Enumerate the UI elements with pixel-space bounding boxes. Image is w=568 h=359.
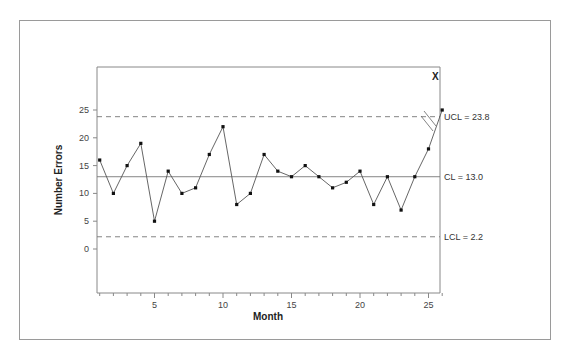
data-point xyxy=(126,164,129,167)
x-tick-label: 20 xyxy=(355,300,365,310)
break-marker-icon xyxy=(421,111,436,131)
data-point xyxy=(372,203,375,206)
x-tick-label: 10 xyxy=(218,300,228,310)
data-line xyxy=(100,110,443,221)
data-point xyxy=(208,153,211,156)
data-point xyxy=(249,192,252,195)
y-tick-label: 15 xyxy=(79,161,89,171)
data-point xyxy=(358,170,361,173)
data-point xyxy=(290,175,293,178)
x-axis-ticks: 510152025 xyxy=(100,293,443,310)
x-tick-label: 5 xyxy=(152,300,157,310)
data-point xyxy=(153,220,156,223)
x-axis-title: Month xyxy=(253,311,283,322)
lcl-label: LCL = 2.2 xyxy=(444,232,483,242)
data-point xyxy=(235,203,238,206)
data-point xyxy=(221,125,224,128)
data-point xyxy=(263,153,266,156)
data-point xyxy=(194,186,197,189)
data-point xyxy=(317,175,320,178)
data-points xyxy=(98,108,444,222)
data-point xyxy=(112,192,115,195)
x-tick-label: 15 xyxy=(286,300,296,310)
data-point xyxy=(304,164,307,167)
data-point xyxy=(139,142,142,145)
data-point xyxy=(331,186,334,189)
data-point xyxy=(180,192,183,195)
data-point xyxy=(98,158,101,161)
y-tick-label: 10 xyxy=(79,188,89,198)
control-chart: 0510152025 510152025 UCL = 23.8CL = 13.0… xyxy=(0,0,568,359)
data-point xyxy=(413,175,416,178)
y-tick-label: 20 xyxy=(79,133,89,143)
y-axis-title: Number Errors xyxy=(53,144,64,215)
y-tick-label: 0 xyxy=(84,244,89,254)
x-tick-label: 25 xyxy=(423,300,433,310)
cl-label: CL = 13.0 xyxy=(444,172,483,182)
out-of-control-marker: X xyxy=(432,71,439,82)
data-point xyxy=(441,108,444,111)
data-point xyxy=(427,147,430,150)
data-point xyxy=(345,181,348,184)
y-tick-label: 25 xyxy=(79,105,89,115)
y-tick-label: 5 xyxy=(84,216,89,226)
data-point xyxy=(167,170,170,173)
data-point xyxy=(386,175,389,178)
data-point xyxy=(276,170,279,173)
data-point xyxy=(400,208,403,211)
ucl-label: UCL = 23.8 xyxy=(444,112,489,122)
y-axis-ticks: 0510152025 xyxy=(79,105,97,254)
